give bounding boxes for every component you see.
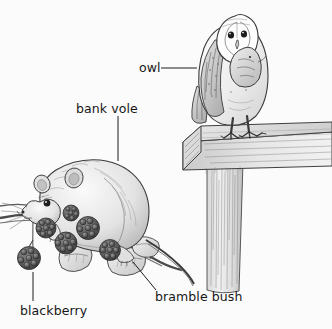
illustration-artwork [0,0,332,329]
berry-cluster [77,217,100,240]
label-bramble-bush: bramble bush [155,289,242,304]
berry-cluster [36,218,56,238]
berry-cluster [55,232,77,254]
berry-cluster [100,240,121,261]
label-owl: owl [139,60,161,75]
berry-cluster [63,205,79,221]
label-blackberry: blackberry [20,303,87,318]
label-bank-vole: bank vole [76,101,138,116]
illustration-figure: owl bank vole blackberry bramble bush [0,0,332,329]
